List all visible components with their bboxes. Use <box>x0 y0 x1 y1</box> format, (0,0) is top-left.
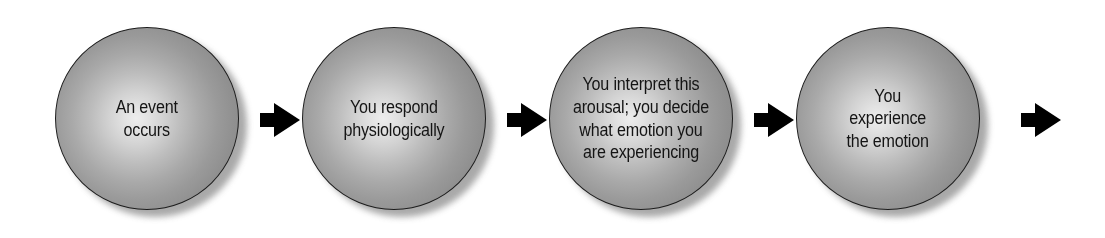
sphere-shape: You experience the emotion <box>796 27 980 210</box>
flow-node-interpret-arousal: You interpret this arousal; you decide w… <box>549 27 739 215</box>
arrow-right-icon <box>754 103 794 137</box>
label-line: You interpret this <box>573 73 709 96</box>
arrow-head <box>1035 103 1061 137</box>
sphere-shape: You interpret this arousal; you decide w… <box>549 27 733 210</box>
label-line: are experiencing <box>573 141 709 164</box>
flow-node-experience-emotion: You experience the emotion <box>796 27 986 215</box>
label-line: occurs <box>116 119 178 141</box>
label-line: what emotion you <box>573 119 709 142</box>
label-line: An event <box>116 96 178 118</box>
flow-node-event-occurs: An event occurs <box>55 27 245 215</box>
sphere-shape: You respond physiologically <box>302 27 486 210</box>
flow-node-label: You interpret this arousal; you decide w… <box>573 73 709 164</box>
arrow-right-icon <box>260 103 300 137</box>
label-line: You <box>847 85 929 107</box>
flow-diagram: An event occurs You respond physiologica… <box>0 0 1105 238</box>
flow-node-label: An event occurs <box>116 96 178 140</box>
label-line: You respond <box>343 96 444 118</box>
arrow-right-icon <box>1021 103 1061 137</box>
label-line: experience <box>847 107 929 129</box>
arrow-head <box>521 103 547 137</box>
arrow-head <box>768 103 794 137</box>
sphere-shape: An event occurs <box>55 27 239 210</box>
arrow-head <box>274 103 300 137</box>
flow-node-label: You respond physiologically <box>343 96 444 140</box>
label-line: the emotion <box>847 130 929 152</box>
label-line: arousal; you decide <box>573 96 709 119</box>
flow-node-respond-physiologically: You respond physiologically <box>302 27 492 215</box>
flow-node-label: You experience the emotion <box>847 85 929 152</box>
arrow-right-icon <box>507 103 547 137</box>
label-line: physiologically <box>343 119 444 141</box>
